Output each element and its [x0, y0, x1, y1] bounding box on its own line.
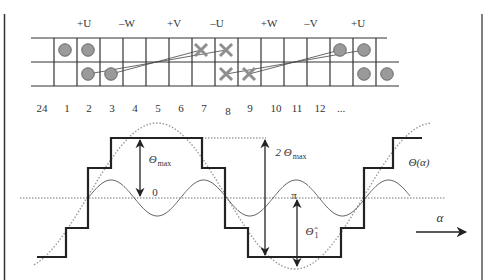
phase-label: +V	[167, 18, 181, 29]
slot-number: 10	[271, 103, 282, 114]
phase-label: +U	[351, 18, 365, 29]
theta-max-label: Θmax	[149, 154, 172, 168]
two-theta-max-label: 2 Θmax	[276, 147, 307, 161]
slot-number: 3	[109, 103, 115, 114]
conductor-cross-icon	[220, 44, 232, 56]
zero-label: 0	[152, 187, 158, 198]
slot-number: 12	[315, 103, 326, 114]
slot-number: 5	[155, 103, 161, 114]
slot-number: 11	[292, 103, 303, 114]
slot-number: 9	[247, 103, 253, 114]
pi-label: π	[291, 190, 297, 201]
conductor-dot-icon	[105, 68, 118, 81]
conductor-dot-icon	[381, 68, 394, 81]
phase-label: –V	[304, 18, 317, 29]
slot-number: 2	[86, 103, 92, 114]
slot-number: 7	[201, 103, 207, 114]
slot-number: 6	[178, 103, 184, 114]
phase-label: –U	[210, 18, 223, 29]
slot-number: 8	[225, 106, 231, 117]
diagram-canvas: +U–W+V–U+W–V+U 24123456789101112... Θmax…	[0, 0, 487, 280]
phase-label: –W	[119, 18, 135, 29]
conductor-cross-icon	[220, 68, 232, 80]
mmf-staircase	[37, 138, 422, 257]
conductor-dot-icon	[82, 68, 95, 81]
theta-hat-1-label: Θ̂1	[306, 226, 319, 240]
conductor-dot-icon	[334, 44, 347, 57]
conductor-dot-icon	[59, 44, 72, 57]
fundamental-sine-dotted	[34, 123, 430, 269]
slot-number: ...	[337, 103, 345, 114]
conductor-dot-icon	[358, 68, 371, 81]
alpha-label: α	[437, 211, 444, 224]
slot-number: 4	[132, 103, 138, 114]
slot-number: 1	[64, 103, 70, 114]
conductor-dot-icon	[82, 44, 95, 57]
conductor-dot-icon	[358, 44, 371, 57]
phase-label: +W	[261, 18, 278, 29]
slot-number: 24	[37, 103, 48, 114]
phase-label: +U	[77, 18, 91, 29]
theta-alpha-label: Θ(α)	[408, 157, 429, 168]
